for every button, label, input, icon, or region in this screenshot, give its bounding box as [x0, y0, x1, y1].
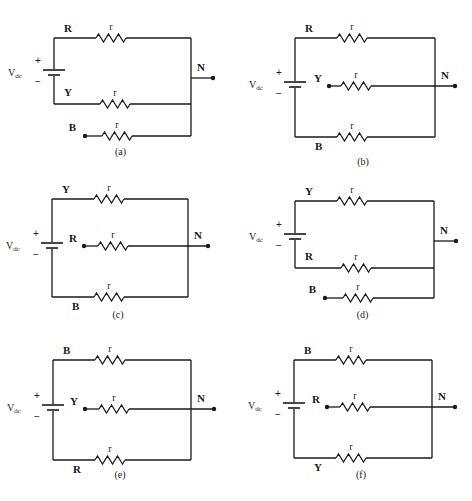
resistor	[100, 100, 130, 108]
source-label: Vdc	[6, 240, 20, 253]
neutral-terminal-dot	[211, 76, 215, 80]
resistor-label: r	[354, 69, 358, 80]
minus-sign: −	[276, 88, 282, 99]
panel-caption: (d)	[357, 309, 369, 321]
phase-label-bottom: R	[73, 463, 82, 475]
phase-label-middle: Y	[64, 86, 72, 98]
neutral-label: N	[197, 392, 205, 404]
resistor	[336, 454, 366, 462]
panel-caption: (a)	[115, 146, 126, 158]
phase-label-top: R	[305, 22, 314, 34]
phase-label-middle: R	[305, 250, 314, 262]
phase-label-middle: Y	[314, 72, 322, 84]
circuit-figure: +−VdcrRrYrBN(a)+−VdcrRrYrBN(b)+−VdcrYrRr…	[0, 0, 472, 501]
resistor-label: r	[349, 343, 353, 354]
neutral-label: N	[194, 229, 202, 241]
resistor-label: r	[353, 390, 357, 401]
resistor-label: r	[350, 184, 354, 195]
circuit-panel-a: +−VdcrRrYrBN(a)	[8, 21, 215, 158]
circuit-panel-b: +−VdcrRrYrBN(b)	[249, 21, 457, 168]
resistor	[95, 456, 125, 464]
minus-sign: −	[34, 411, 40, 422]
source-label: Vdc	[248, 400, 262, 413]
resistor-label: r	[111, 229, 115, 240]
resistor	[102, 132, 132, 140]
resistor-label: r	[112, 392, 116, 403]
plus-sign: +	[34, 390, 40, 401]
phase-label-top: R	[64, 22, 73, 34]
phase-label-middle: R	[312, 393, 321, 405]
plus-sign: +	[35, 55, 41, 66]
resistor	[340, 403, 370, 411]
neutral-terminal-dot	[453, 405, 457, 409]
resistor	[337, 34, 367, 42]
neutral-label: N	[440, 224, 448, 236]
phase-label-top: Y	[305, 185, 313, 197]
circuit-panel-f: +−VdcrBrRrYN(f)	[248, 343, 457, 481]
resistor	[98, 242, 128, 250]
source-label-subscript: dc	[255, 405, 262, 413]
resistor-label: r	[108, 343, 112, 354]
resistor-label: r	[349, 441, 353, 452]
minus-sign: −	[275, 409, 281, 420]
neutral-terminal-dot	[206, 244, 210, 248]
resistor	[341, 264, 371, 272]
resistor-label: r	[108, 443, 112, 454]
neutral-terminal-dot	[454, 239, 458, 243]
phase-label-bottom: B	[315, 140, 323, 152]
resistor	[94, 195, 124, 203]
panel-caption: (b)	[357, 156, 369, 168]
resistor	[337, 197, 367, 205]
resistor-label: r	[115, 119, 119, 130]
resistor-label: r	[350, 120, 354, 131]
resistor	[99, 405, 129, 413]
neutral-terminal-dot	[453, 84, 457, 88]
plus-sign: +	[276, 67, 282, 78]
source-label-subscript: dc	[256, 236, 263, 244]
resistor-label: r	[107, 280, 111, 291]
source-label-subscript: dc	[13, 245, 20, 253]
resistor	[343, 294, 373, 302]
resistor-label: r	[356, 281, 360, 292]
neutral-label: N	[197, 61, 205, 73]
neutral-label: N	[441, 69, 449, 81]
phase-label-middle: Y	[70, 395, 78, 407]
phase-label-bottom: B	[72, 300, 80, 312]
neutral-label: N	[438, 390, 446, 402]
source-label-subscript: dc	[15, 72, 22, 80]
neutral-terminal-dot	[212, 407, 216, 411]
phase-label-top: B	[304, 344, 312, 356]
resistor	[341, 82, 371, 90]
phase-label-top: Y	[62, 183, 70, 195]
source-label: Vdc	[249, 231, 263, 244]
circuit-panel-c: +−VdcrYrRrBN(c)	[6, 182, 210, 321]
circuit-panel-e: +−VdcrBrYrRN(e)	[7, 343, 216, 481]
panel-caption: (e)	[114, 469, 125, 481]
phase-label-middle: R	[69, 232, 78, 244]
minus-sign: −	[35, 76, 41, 87]
resistor	[95, 356, 125, 364]
phase-label-top: B	[63, 344, 71, 356]
source-label: Vdc	[249, 79, 263, 92]
panel-caption: (f)	[356, 469, 366, 481]
source-label-subscript: dc	[256, 84, 263, 92]
source-label: Vdc	[7, 402, 21, 415]
source-label-subscript: dc	[14, 407, 21, 415]
resistor-label: r	[113, 87, 117, 98]
phase-label-bottom: B	[309, 283, 317, 295]
resistor-label: r	[354, 251, 358, 262]
resistor	[94, 293, 124, 301]
minus-sign: −	[33, 249, 39, 260]
minus-sign: −	[276, 240, 282, 251]
plus-sign: +	[275, 388, 281, 399]
resistor-label: r	[350, 21, 354, 32]
phase-label-bottom: Y	[314, 461, 322, 473]
plus-sign: +	[33, 228, 39, 239]
resistor	[337, 133, 367, 141]
plus-sign: +	[276, 219, 282, 230]
phase-label-bottom: B	[69, 121, 77, 133]
circuit-panel-d: +−VdcrYrRrBN(d)	[249, 184, 458, 321]
resistor-label: r	[109, 21, 113, 32]
source-label: Vdc	[8, 67, 22, 80]
panel-caption: (c)	[112, 309, 123, 321]
